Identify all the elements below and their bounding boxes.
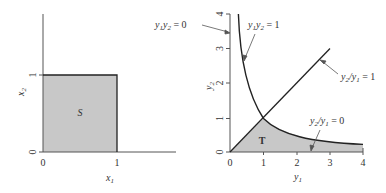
annotation-y2y1-eq-1: y2/y1 = 1 [340, 71, 375, 84]
right-xtick-2: 2 [295, 157, 300, 168]
region-s-label: S [78, 107, 83, 118]
left-ytick-0: 0 [27, 150, 38, 155]
right-xtick-1: 1 [261, 157, 266, 168]
annotation-y1y2-eq-0: y1y2 = 0 [154, 19, 187, 32]
figure: 0 1 0 1 x1 x2 S 0 1 2 [0, 0, 386, 193]
right-xtick-3: 3 [328, 157, 333, 168]
region-t-label: T [259, 135, 266, 146]
right-ytick-4: 4 [214, 12, 225, 17]
right-xlabel: y1 [293, 171, 302, 184]
right-ylabel: y2 [203, 82, 216, 91]
left-plot: 0 1 0 1 x1 x2 S [15, 14, 176, 185]
left-ytick-1: 1 [27, 73, 38, 78]
annotation-y2y1-eq-0: y2/y1 = 0 [309, 115, 344, 128]
right-xtick-0: 0 [228, 157, 233, 168]
right-ytick-1: 1 [214, 116, 225, 121]
annotation-y1y2-eq-1: y1y2 = 1 [247, 19, 280, 32]
right-ytick-3: 3 [214, 46, 225, 51]
left-xtick-1: 1 [115, 157, 120, 168]
left-xtick-0: 0 [41, 157, 46, 168]
right-plot: 0 1 2 3 4 0 1 2 3 4 y1 y2 T y1y2 = 0 y1y… [154, 12, 375, 185]
left-ylabel: x2 [15, 88, 28, 97]
right-ytick-0: 0 [214, 150, 225, 155]
right-xtick-4: 4 [361, 157, 366, 168]
left-xlabel: x1 [105, 172, 114, 185]
